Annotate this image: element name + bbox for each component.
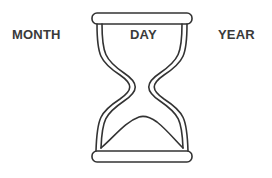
year-label: YEAR [218, 28, 255, 42]
month-label: MONTH [12, 28, 61, 42]
day-label: DAY [130, 28, 157, 42]
